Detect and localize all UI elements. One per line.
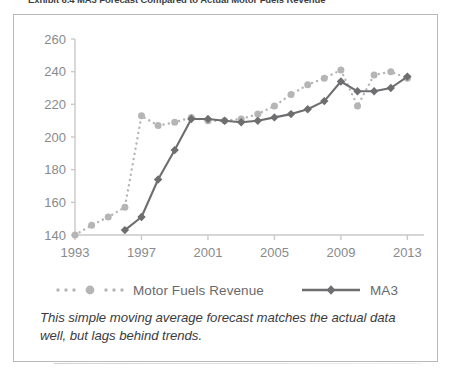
chart-plot-area: 140160180200220240260 199319972001200520… — [28, 27, 428, 272]
y-axis-tick-label: 180 — [44, 162, 66, 177]
bottom-divider — [54, 363, 422, 364]
legend-item-ma3: MA3 — [300, 283, 398, 298]
dotted-line-marker-icon — [55, 283, 125, 297]
x-axis-tick-label: 2009 — [326, 245, 355, 260]
y-axis-tick-label: 140 — [44, 228, 66, 243]
legend-label-ma3: MA3 — [370, 283, 398, 298]
chart-series-group — [72, 67, 412, 239]
y-axis-tick-label: 240 — [44, 64, 66, 79]
chart-legend: Motor Fuels Revenue MA3 — [14, 273, 439, 307]
exhibit-card: 140160180200220240260 199319972001200520… — [13, 14, 438, 362]
y-axis-tick-label: 220 — [44, 97, 66, 112]
x-axis-tick-label: 2001 — [193, 245, 222, 260]
x-axis-tick-label: 1993 — [61, 245, 90, 260]
x-axis-tick-label: 2005 — [260, 245, 289, 260]
y-axis-tick-label: 200 — [44, 130, 66, 145]
x-axis-tick-label: 2013 — [393, 245, 422, 260]
line-chart: 140160180200220240260 199319972001200520… — [28, 27, 428, 272]
exhibit-caption: This simple moving average forecast matc… — [40, 309, 412, 345]
chart-series-ma3 — [121, 72, 412, 234]
x-axis: 199319972001200520092013 — [61, 235, 424, 260]
y-axis: 140160180200220240260 — [44, 32, 75, 243]
y-axis-tick-label: 260 — [44, 32, 66, 47]
solid-line-marker-icon — [300, 283, 362, 297]
legend-item-motor-fuels-revenue: Motor Fuels Revenue — [55, 283, 264, 298]
y-axis-tick-label: 160 — [44, 195, 66, 210]
x-axis-tick-label: 1997 — [127, 245, 156, 260]
legend-label-motor-fuels-revenue: Motor Fuels Revenue — [133, 283, 264, 298]
exhibit-title: Exhibit 6.4 MA3 Forecast Compared to Act… — [28, 0, 448, 6]
